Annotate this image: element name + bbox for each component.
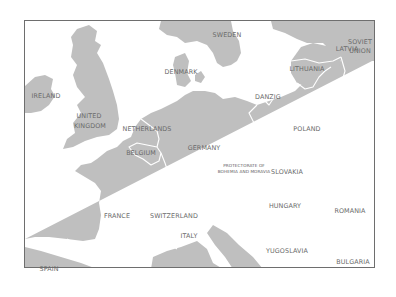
- great-britain-shape: [63, 25, 119, 149]
- country-label-soviet-union-1: SOVIET: [348, 39, 372, 46]
- country-label-danzig: DANZIG: [255, 94, 281, 101]
- country-label-belgium: BELGIUM: [126, 150, 156, 157]
- country-label-yugoslavia: YUGOSLAVIA: [266, 248, 308, 255]
- country-label-lithuania: LITHUANIA: [289, 66, 324, 73]
- border-italy-yugoslavia: [227, 211, 267, 233]
- country-label-spain: SPAIN: [39, 266, 58, 273]
- country-label-switzerland: SWITZERLAND: [150, 213, 198, 220]
- country-label-denmark: DENMARK: [165, 69, 198, 76]
- country-label-netherlands: NETHERLANDS: [123, 126, 172, 133]
- border-germany-italy: [197, 201, 263, 207]
- country-label-sweden: SWEDEN: [213, 32, 242, 39]
- country-label-hungary: HUNGARY: [269, 203, 301, 210]
- country-label-united-kingdom-1: UNITED: [77, 113, 102, 120]
- country-label-romania: ROMANIA: [334, 208, 365, 215]
- country-label-united-kingdom-2: KINGDOM: [74, 123, 106, 130]
- country-label-protectorate-1: PROTECTORATE OF: [223, 164, 265, 169]
- country-label-soviet-union-2: UNION: [349, 48, 371, 55]
- country-label-ireland: IRELAND: [32, 93, 61, 100]
- country-label-poland: POLAND: [293, 126, 320, 133]
- border-soviet-poland: [337, 57, 375, 187]
- country-label-germany: GERMANY: [188, 145, 221, 152]
- border-france-italy: [169, 215, 177, 249]
- scandinavia-shape: [159, 21, 241, 67]
- country-label-italy: ITALY: [181, 233, 198, 240]
- country-label-bulgaria: BULGARIA: [336, 259, 369, 266]
- border-france-spain: [67, 239, 119, 263]
- border-romania: [309, 213, 375, 245]
- country-label-slovakia: SLOVAKIA: [271, 169, 303, 176]
- country-label-france: FRANCE: [104, 213, 130, 220]
- country-label-protectorate-2: BOHEMIA AND MORAVIA: [218, 170, 271, 175]
- continent-shape: [25, 59, 375, 268]
